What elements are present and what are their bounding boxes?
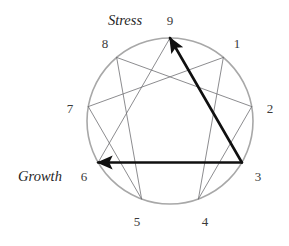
point-label-2: 2 xyxy=(267,101,274,116)
enneagram-diagram: 912345678 Stress Growth xyxy=(0,0,289,246)
point-label-4: 4 xyxy=(202,214,209,229)
point-label-9: 9 xyxy=(167,13,174,28)
enneagram-canvas: 912345678 Stress Growth xyxy=(0,0,289,246)
point-number-labels: 912345678 xyxy=(67,13,274,229)
stress-label: Stress xyxy=(108,12,142,28)
point-label-1: 1 xyxy=(234,36,241,51)
triangle-segment-6-9 xyxy=(98,38,170,163)
point-label-6: 6 xyxy=(81,169,88,184)
point-label-7: 7 xyxy=(67,101,74,116)
hexad-path xyxy=(88,57,251,199)
point-label-5: 5 xyxy=(134,214,141,229)
outer-circle xyxy=(87,38,253,204)
growth-label: Growth xyxy=(18,168,62,184)
triangle-path xyxy=(98,38,242,163)
point-label-3: 3 xyxy=(255,169,262,184)
direction-arrows xyxy=(98,38,242,163)
point-label-8: 8 xyxy=(102,36,109,51)
stress-arrow-3-to-9 xyxy=(170,38,242,163)
